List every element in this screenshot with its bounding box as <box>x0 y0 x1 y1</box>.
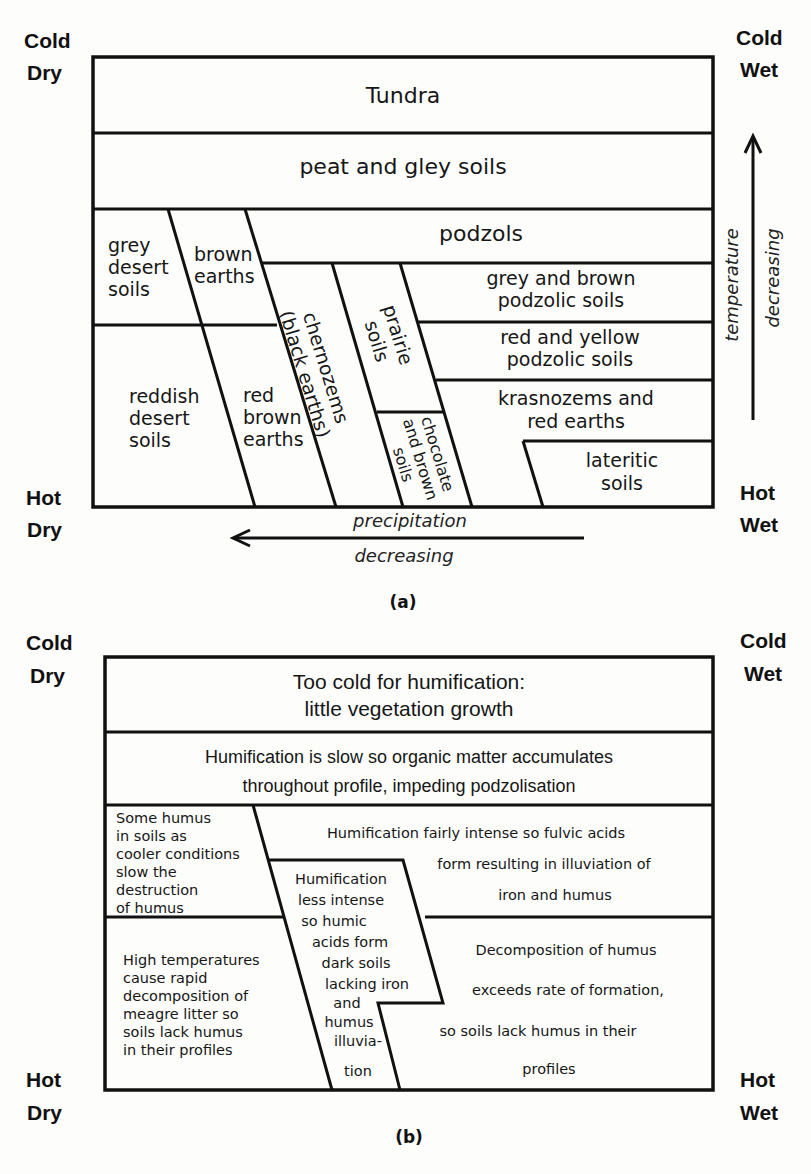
zone-podzols: podzols <box>439 221 523 246</box>
svg-text:earths: earths <box>194 265 255 287</box>
svg-text:little vegetation growth: little vegetation growth <box>305 697 514 720</box>
zone-lateritic: lateritic soils <box>586 449 658 494</box>
svg-text:earths: earths <box>243 428 304 450</box>
svg-text:Humification fairly intense so: Humification fairly intense so fulvic ac… <box>327 825 625 841</box>
temperature-arrow: temperature decreasing <box>721 136 783 420</box>
corner-b-tr-2: Wet <box>744 662 782 685</box>
svg-text:decomposition of: decomposition of <box>123 988 249 1004</box>
svg-text:destruction: destruction <box>116 882 198 898</box>
svg-text:acids form: acids form <box>312 934 388 950</box>
svg-text:less intense: less intense <box>298 892 384 908</box>
svg-text:reddish: reddish <box>129 385 199 407</box>
caption-b: (b) <box>395 1127 423 1147</box>
svg-text:form resulting in illuviation: form resulting in illuviation of <box>437 856 651 872</box>
svg-text:meagre litter so: meagre litter so <box>123 1006 239 1022</box>
svg-text:brown: brown <box>243 406 302 428</box>
zone-reddish-desert: reddish desert soils <box>129 385 199 451</box>
corner-b-br-2: Wet <box>740 1101 778 1124</box>
svg-text:krasnozems and: krasnozems and <box>498 387 654 409</box>
svg-text:iron and humus: iron and humus <box>498 887 611 903</box>
svg-text:brown: brown <box>194 243 253 265</box>
svg-text:grey and brown: grey and brown <box>487 267 636 289</box>
caption-a: (a) <box>389 592 416 612</box>
zone-less-intense: Humification less intense so humic acids… <box>295 871 409 1079</box>
zone-krasnozems: krasnozems and red earths <box>498 387 654 432</box>
svg-text:profiles: profiles <box>522 1061 575 1077</box>
precipitation-arrow: precipitation decreasing <box>233 510 584 566</box>
svg-text:soils: soils <box>129 429 171 451</box>
svg-text:tion: tion <box>344 1063 372 1079</box>
svg-text:red: red <box>243 384 274 406</box>
svg-text:podzolic soils: podzolic soils <box>507 348 633 370</box>
svg-text:of humus: of humus <box>116 900 184 916</box>
zone-some-humus: Some humus in soils as cooler conditions… <box>116 810 240 916</box>
corner-a-bl-1: Hot <box>26 486 61 509</box>
svg-text:red and yellow: red and yellow <box>500 326 640 348</box>
panel-a: Cold Dry Cold Wet Hot Dry Hot Wet Tundra… <box>24 26 783 612</box>
svg-text:soils lack humus: soils lack humus <box>123 1024 243 1040</box>
svg-text:decreasing: decreasing <box>354 545 453 566</box>
zone-too-cold: Too cold for humification: little vegeta… <box>293 670 525 720</box>
svg-text:humus: humus <box>324 1014 373 1030</box>
svg-text:illuvia-: illuvia- <box>334 1033 382 1049</box>
svg-text:desert: desert <box>129 407 190 429</box>
svg-text:and: and <box>333 995 360 1011</box>
panel-b: Cold Dry Cold Wet Hot Dry Hot Wet Too co… <box>26 629 787 1147</box>
svg-text:Some humus: Some humus <box>116 810 211 826</box>
corner-a-tr-1: Cold <box>736 26 783 49</box>
zone-red-yellow-podzolic: red and yellow podzolic soils <box>500 326 640 370</box>
svg-text:so soils lack humus in their: so soils lack humus in their <box>439 1023 636 1039</box>
corner-a-tr-2: Wet <box>740 58 778 81</box>
svg-text:temperature: temperature <box>721 228 742 342</box>
svg-text:exceeds rate of formation,: exceeds rate of formation, <box>472 982 664 998</box>
corner-b-bl-2: Dry <box>27 1101 62 1124</box>
svg-text:dark soils: dark soils <box>321 955 390 971</box>
corner-a-tl-2: Dry <box>27 61 62 84</box>
corner-a-bl-2: Dry <box>27 518 62 541</box>
zone-peat-gley: peat and gley soils <box>299 154 506 179</box>
svg-text:precipitation: precipitation <box>352 510 467 531</box>
svg-text:Humification is slow so organi: Humification is slow so organic matter a… <box>205 747 613 767</box>
svg-text:cooler conditions: cooler conditions <box>116 846 240 862</box>
zone-grey-brown-podzolic: grey and brown podzolic soils <box>487 267 636 311</box>
svg-text:podzolic soils: podzolic soils <box>498 289 624 311</box>
corner-a-br-1: Hot <box>740 481 775 504</box>
boundary <box>523 441 543 507</box>
corner-b-br-1: Hot <box>740 1068 775 1091</box>
corner-a-br-2: Wet <box>740 513 778 536</box>
svg-text:lateritic: lateritic <box>586 449 658 471</box>
svg-text:throughout profile, impeding: throughout profile, impeding podzolisati… <box>242 776 575 796</box>
corner-b-tl-1: Cold <box>26 631 73 654</box>
svg-text:cause rapid: cause rapid <box>123 970 207 986</box>
zone-slow-humification: Humification is slow so organic matter a… <box>205 747 613 796</box>
zone-red-brown-earths: red brown earths <box>243 384 304 450</box>
svg-text:red earths: red earths <box>527 410 625 432</box>
svg-text:soils: soils <box>108 278 150 300</box>
svg-text:so humic: so humic <box>301 913 367 929</box>
svg-text:Decomposition of humus: Decomposition of humus <box>476 942 657 958</box>
corner-a-tl-1: Cold <box>24 29 71 52</box>
svg-text:lacking iron: lacking iron <box>325 976 409 992</box>
svg-text:slow the: slow the <box>116 864 177 880</box>
svg-text:soils: soils <box>601 472 643 494</box>
svg-text:in their profiles: in their profiles <box>123 1042 233 1058</box>
zone-grey-desert: grey desert soils <box>108 234 169 300</box>
svg-text:Too cold for humification:: Too cold for humification: <box>293 670 525 693</box>
svg-text:High temperatures: High temperatures <box>123 952 260 968</box>
svg-text:in soils as: in soils as <box>116 828 187 844</box>
svg-text:desert: desert <box>108 256 169 278</box>
zone-prairie: prairie soils <box>358 302 418 374</box>
zone-decomposition: Decomposition of humus exceeds rate of f… <box>439 942 663 1077</box>
svg-text:Humification: Humification <box>295 871 387 887</box>
zone-high-temperatures: High temperatures cause rapid decomposit… <box>123 952 260 1058</box>
corner-b-tr-1: Cold <box>740 629 787 652</box>
zone-tundra: Tundra <box>365 83 440 108</box>
svg-text:grey: grey <box>108 234 150 256</box>
svg-text:decreasing: decreasing <box>762 228 783 327</box>
corner-b-bl-1: Hot <box>26 1068 61 1091</box>
corner-b-tl-2: Dry <box>30 664 65 687</box>
soil-zones-figure: Cold Dry Cold Wet Hot Dry Hot Wet Tundra… <box>0 0 811 1174</box>
zone-brown-earths: brown earths <box>194 243 255 287</box>
